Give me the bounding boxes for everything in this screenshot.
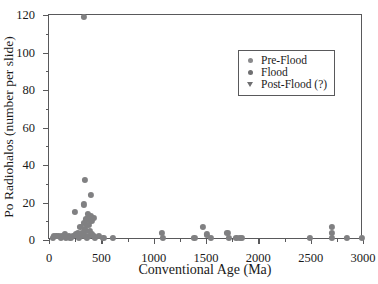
data-point <box>191 235 197 241</box>
data-point <box>225 235 231 241</box>
data-point <box>67 235 73 241</box>
data-point <box>82 177 88 183</box>
y-tick-major: 120 <box>43 15 49 16</box>
legend-item-post-flood: Post-Flood (?) <box>244 79 327 91</box>
y-tick-minor <box>46 34 50 35</box>
data-point <box>239 235 245 241</box>
x-tick-minor <box>337 238 338 242</box>
y-tick-minor <box>46 146 50 147</box>
y-tick-label: 20 <box>23 195 36 210</box>
data-point <box>160 235 166 241</box>
y-tick-major: 60 <box>43 128 49 129</box>
x-tick-major: 2000 <box>258 238 259 244</box>
legend-marker-circle-icon <box>244 58 256 63</box>
x-axis-title: Conventional Age (Ma) <box>48 262 362 278</box>
y-tick-major: 80 <box>43 90 49 91</box>
y-tick-label: 60 <box>23 120 36 135</box>
legend-item-flood: Flood <box>244 67 327 79</box>
data-point <box>88 192 94 198</box>
data-point <box>50 235 56 241</box>
x-tick-minor <box>180 238 181 242</box>
legend-label-flood: Flood <box>261 67 288 79</box>
data-point <box>200 224 206 230</box>
y-tick-label: 40 <box>23 158 36 173</box>
legend-label-pre-flood: Pre-Flood <box>261 55 307 67</box>
y-tick-minor <box>46 184 50 185</box>
chart-legend: Pre-Flood Flood Post-Flood (?) <box>238 50 335 96</box>
legend-label-post-flood: Post-Flood (?) <box>261 79 327 91</box>
data-point <box>80 201 86 207</box>
y-axis-title-text: Po Radiohalos (number per slide) <box>1 36 17 217</box>
y-tick-minor <box>46 109 50 110</box>
data-point <box>329 235 335 241</box>
legend-marker-circle-icon <box>244 70 256 75</box>
plot-area: 020406080100120050010001500200025003000 <box>48 14 362 239</box>
x-tick-minor <box>285 238 286 242</box>
data-point <box>110 235 116 241</box>
y-tick-major: 40 <box>43 165 49 166</box>
y-tick-label: 80 <box>23 83 36 98</box>
legend-marker-triangle-down-icon <box>244 82 256 87</box>
data-point <box>100 235 106 241</box>
y-tick-label: 100 <box>16 45 35 60</box>
y-tick-major: 100 <box>43 53 49 54</box>
y-tick-minor <box>46 221 50 222</box>
data-point <box>208 235 214 241</box>
y-tick-label: 0 <box>29 233 35 248</box>
data-point <box>72 209 78 215</box>
x-axis-title-text: Conventional Age (Ma) <box>139 262 272 277</box>
y-tick-minor <box>46 71 50 72</box>
data-point <box>92 235 98 241</box>
y-tick-major: 20 <box>43 203 49 204</box>
x-tick-major: 1000 <box>154 238 155 244</box>
legend-item-pre-flood: Pre-Flood <box>244 55 327 67</box>
data-point <box>80 14 86 20</box>
data-point <box>76 235 82 241</box>
data-point <box>84 235 90 241</box>
x-tick-minor <box>128 238 129 242</box>
data-point <box>344 235 350 241</box>
scatter-chart-figure: Po Radiohalos (number per slide) 0204060… <box>0 0 378 284</box>
y-tick-label: 120 <box>16 8 35 23</box>
